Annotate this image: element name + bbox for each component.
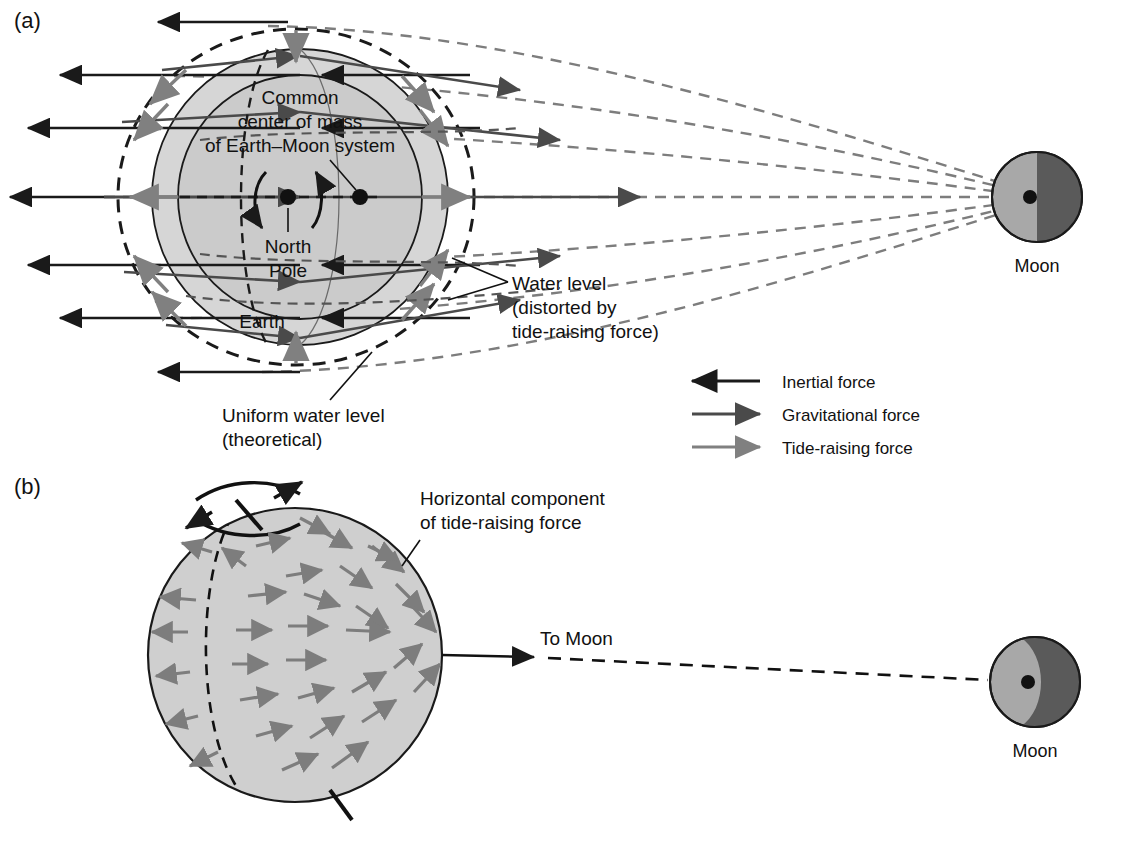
uniform-water-level-label-line1: Uniform water level [222, 405, 385, 426]
center-of-mass-label-line3: of Earth–Moon system [205, 135, 395, 156]
water-level-label-line3: tide-raising force) [512, 321, 659, 342]
north-pole-dot [280, 189, 296, 205]
north-pole-label-line1: North [265, 236, 311, 257]
legend-label-inertial: Inertial force [782, 373, 876, 392]
tidal-force-figure: (a) [0, 0, 1137, 842]
to-moon-label: To Moon [540, 628, 613, 649]
earth-sphere-b [148, 508, 442, 802]
uniform-water-level-label-line2: (theoretical) [222, 429, 322, 450]
moon-center-dot-b [1021, 675, 1035, 689]
moon-center-dot-a [1023, 190, 1037, 204]
panel-a-label: (a) [14, 8, 41, 33]
center-of-mass-dot [352, 189, 368, 205]
panel-b-label: (b) [14, 474, 41, 499]
north-pole-label-line2: Pole [269, 260, 307, 281]
legend-label-gravitational: Gravitational force [782, 406, 920, 425]
moon-label-b: Moon [1012, 741, 1057, 761]
legend-label-tide-raising: Tide-raising force [782, 439, 913, 458]
moon-label-a: Moon [1014, 256, 1059, 276]
center-of-mass-label-line1: Common [261, 87, 338, 108]
horizontal-component-label-line2: of tide-raising force [420, 512, 582, 533]
horizontal-component-label-line1: Horizontal component [420, 488, 606, 509]
water-level-label-line1: Water level [512, 273, 606, 294]
earth-label: Earth [239, 311, 284, 332]
center-of-mass-label-line2: center of mass [238, 111, 363, 132]
water-level-label-line2: (distorted by [512, 297, 617, 318]
